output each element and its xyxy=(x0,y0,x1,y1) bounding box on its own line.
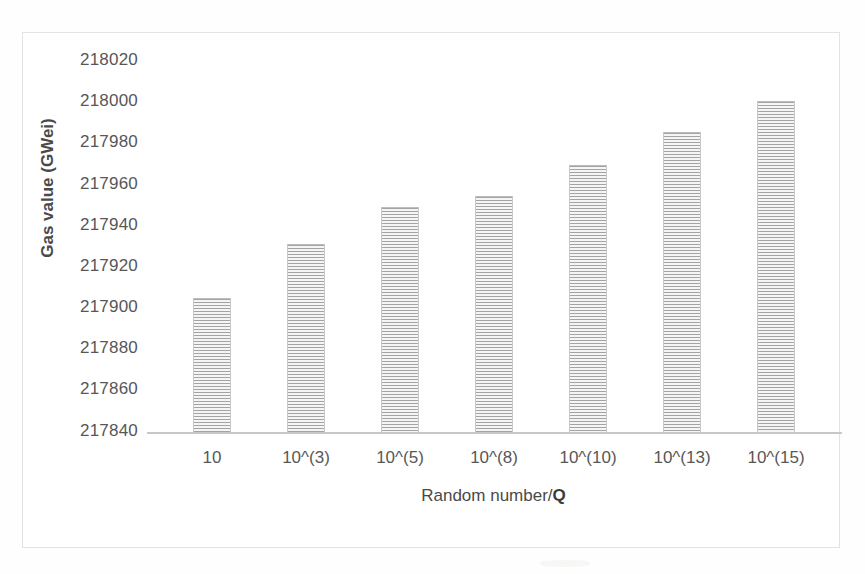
bar xyxy=(193,298,231,433)
bar xyxy=(663,132,701,433)
y-tick-label: 217840 xyxy=(38,422,138,439)
scan-artifact xyxy=(540,560,590,567)
bar xyxy=(757,101,795,433)
x-axis-title-emphasis: Q xyxy=(553,486,566,505)
x-axis-title: Random number/Q xyxy=(147,486,840,506)
scanned-page-background: 218020 218000 217980 217960 217940 21792… xyxy=(0,0,865,574)
y-axis-title: Gas value (GWei) xyxy=(38,88,58,288)
bar xyxy=(569,165,607,433)
bar xyxy=(475,196,513,433)
x-axis-title-main: Random number/ xyxy=(421,486,552,505)
x-tick-label: 10^(15) xyxy=(721,448,831,468)
y-tick-label: 217860 xyxy=(38,380,138,397)
x-axis-line xyxy=(147,432,842,434)
bar xyxy=(287,244,325,433)
y-tick-label: 218020 xyxy=(38,51,138,68)
y-tick-label: 217900 xyxy=(38,298,138,315)
bar xyxy=(381,207,419,433)
plot-area xyxy=(147,59,840,433)
y-tick-label: 217880 xyxy=(38,339,138,356)
